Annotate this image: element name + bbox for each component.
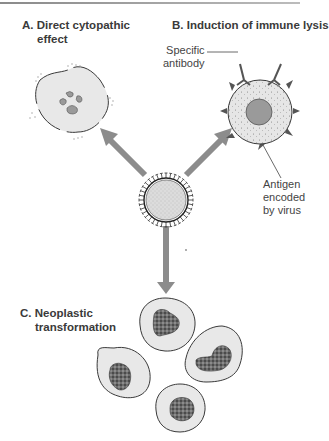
virus-spike <box>185 187 189 190</box>
virus-spike-tip <box>155 225 158 226</box>
virus-spike <box>139 195 144 196</box>
virus-spike <box>149 217 152 221</box>
cell-b-immune-lysis <box>207 52 300 178</box>
virus-spike <box>141 191 146 193</box>
virus-spike <box>170 222 171 227</box>
virus-spike <box>187 191 192 193</box>
virus-spike <box>157 175 159 180</box>
virus-spike-tip <box>192 194 193 197</box>
virus-spike <box>188 204 193 205</box>
virus-spike <box>185 211 189 214</box>
transformed-cells <box>97 298 242 432</box>
virus-spike-tip <box>139 194 140 197</box>
virus-spike <box>157 221 159 226</box>
antigen-leader-line <box>263 145 281 178</box>
virus-spike <box>174 175 176 180</box>
virus-spike <box>180 217 183 221</box>
transformed-cell-2 <box>97 347 150 397</box>
virus-spike <box>145 214 149 217</box>
virus-spike <box>180 179 183 183</box>
virus-spike <box>170 173 171 178</box>
virus-spike-tip <box>140 208 141 211</box>
arrow-to-a <box>100 128 145 175</box>
virus-spike-tip <box>169 173 172 174</box>
arrow-to-c <box>157 226 175 294</box>
virus-spike-tip <box>192 203 193 206</box>
virus-spike <box>139 204 144 205</box>
virus-spike <box>141 208 146 210</box>
virus-spike <box>183 214 187 217</box>
virus-spike-tip <box>174 225 177 226</box>
virus-spike-tip <box>139 203 140 206</box>
transformed-cell-3 <box>185 326 242 382</box>
virus-spike <box>177 219 180 223</box>
virus-spike <box>145 183 149 186</box>
virus-spike <box>188 195 193 196</box>
virus-spike <box>149 179 152 183</box>
transformed-cell-4 <box>156 384 205 432</box>
speck-mark <box>185 249 187 251</box>
arrow-to-b <box>186 128 232 175</box>
virus-spike <box>143 187 147 190</box>
virus-spike-tip <box>169 226 172 227</box>
virus-spike-tip <box>191 208 192 211</box>
virus-spike-tip <box>140 189 141 192</box>
virus-particle <box>139 173 193 227</box>
virus-spike <box>153 219 156 223</box>
virus-spike <box>153 177 156 181</box>
virus-spike <box>161 173 162 178</box>
virus-spike <box>161 222 162 227</box>
virus-spike-tip <box>155 174 158 175</box>
virus-spike <box>177 177 180 181</box>
virus-spike <box>183 183 187 186</box>
virus-spike-tip <box>174 174 177 175</box>
virus-spike <box>187 208 192 210</box>
virus-spike <box>174 221 176 226</box>
virus-spike-tip <box>160 226 163 227</box>
virus-spike-tip <box>160 173 163 174</box>
virus-spike-tip <box>191 189 192 192</box>
virus-spike <box>143 211 147 214</box>
cell-a-cytopathic <box>29 63 113 139</box>
transformed-cell-1 <box>140 298 195 351</box>
